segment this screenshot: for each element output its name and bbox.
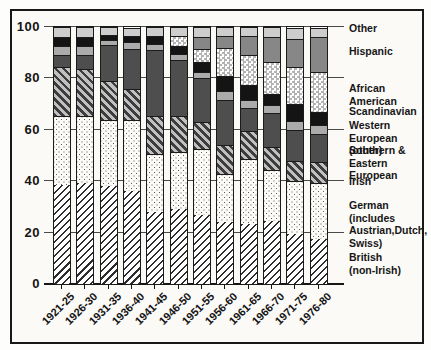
bar-segment-british [124,191,140,284]
bar-segment-hispanic [287,39,303,67]
bar-segment-german [77,116,93,183]
x-axis-tick [84,285,85,289]
bar-segment-irish [101,81,117,120]
bar-1931-35 [100,26,118,285]
bar-segment-irish [147,116,163,155]
bar-segment-german [101,120,117,187]
bar-segment-irish [194,122,210,149]
bar-segment-german [287,181,303,234]
bar-segment-other [311,28,327,37]
stacked-bar-chart-figure: 0204060801001921-251926-301931-351936-40… [0,0,431,350]
bar-segment-w-european [171,54,187,60]
bar-segment-african-american [241,55,257,85]
bar-1926-30 [76,26,94,285]
bar-segment-british [287,234,303,284]
bar-segment-hispanic [194,37,210,49]
bar-segment-british [77,183,93,285]
bar-segment-se-european [101,45,117,81]
bar-1946-50 [170,26,188,285]
bar-segment-se-european [264,113,280,146]
bar-segment-w-european [77,46,93,55]
bar-segment-other [124,28,140,36]
y-axis-tick-label: 0 [12,276,40,291]
bar-segment-german [124,120,140,192]
bar-segment-w-european [217,91,233,100]
legend-label-african-american: African American [349,82,431,107]
bar-segment-scandinavian [54,37,70,46]
bar-segment-german [171,152,187,210]
x-axis-tick [61,285,62,289]
legend-label-irish: Irish [349,175,371,188]
bar-segment-scandinavian [264,94,280,106]
bar-segment-w-european [147,44,163,50]
x-axis-tick [201,285,202,289]
bar-segment-african-american [217,48,233,76]
bar-segment-other [217,27,233,36]
bar-segment-british [194,215,210,284]
bar-segment-w-european [287,121,303,130]
bar-segment-scandinavian [241,85,257,100]
bar-segment-scandinavian [311,112,327,125]
bar-1971-75 [286,26,304,285]
bar-segment-irish [124,89,140,120]
bar-1951-55 [193,26,211,285]
bar-segment-scandinavian [287,104,303,121]
bar-segment-w-european [101,40,117,45]
bar-segment-w-european [54,46,70,55]
bar-segment-se-european [241,108,257,131]
x-axis-tick [178,285,179,289]
legend-label-german: German (includes Austrian,Dutch, Swiss) [349,199,431,249]
bar-segment-british [101,186,117,284]
x-axis-tick [224,285,225,289]
bar-segment-se-european [217,100,233,145]
bar-segment-british [241,224,257,284]
x-axis-tick [294,285,295,289]
plot-area: 0204060801001921-251926-301931-351936-40… [0,0,431,350]
y-axis-tick-label: 40 [12,173,40,188]
bar-segment-german [147,154,163,212]
bar-segment-hispanic [311,37,327,72]
bar-segment-w-european [264,105,280,113]
legend-label-other: Other [349,22,377,35]
bar-segment-irish [217,145,233,173]
bar-segment-british [147,212,163,284]
bar-segment-scandinavian [171,46,187,54]
bar-1936-40 [123,26,141,285]
bar-segment-german [54,116,70,185]
y-axis-tick-label: 60 [12,122,40,137]
bar-segment-se-european [171,60,187,115]
bar-segment-irish [287,161,303,182]
bar-segment-other [101,27,117,35]
bar-segment-irish [264,147,280,170]
bar-segment-other [264,27,280,37]
bar-segment-se-european [311,134,327,162]
bar-segment-other [241,27,257,36]
y-axis-tick-label: 100 [12,19,40,34]
bar-segment-se-european [54,55,70,67]
bar-segment-german [264,170,280,221]
bar-segment-other [54,27,70,37]
bar-segment-hispanic [217,36,233,48]
bar-segment-british [54,185,70,284]
bar-segment-german [217,174,233,223]
bar-segment-se-european [124,49,140,89]
bar-segment-irish [54,67,70,116]
x-axis-tick [154,285,155,289]
bar-segment-other [171,27,187,36]
bar-1921-25 [53,26,71,285]
bar-segment-african-american [264,62,280,94]
y-axis-tick-label: 20 [12,225,40,240]
bar-1961-65 [240,26,258,285]
bar-segment-hispanic [264,37,280,61]
bar-segment-w-european [194,72,210,78]
legend-label-british: British (non-Irish) [349,251,401,276]
bar-segment-german [311,183,327,240]
y-axis-tick-label: 80 [12,70,40,85]
legend-label-hispanic: Hispanic [349,45,393,58]
bar-segment-scandinavian [217,76,233,91]
bar-segment-irish [77,69,93,115]
bar-segment-irish [241,131,257,159]
bar-1976-80 [310,26,328,285]
bar-segment-scandinavian [194,62,210,72]
bar-segment-other [194,27,210,37]
